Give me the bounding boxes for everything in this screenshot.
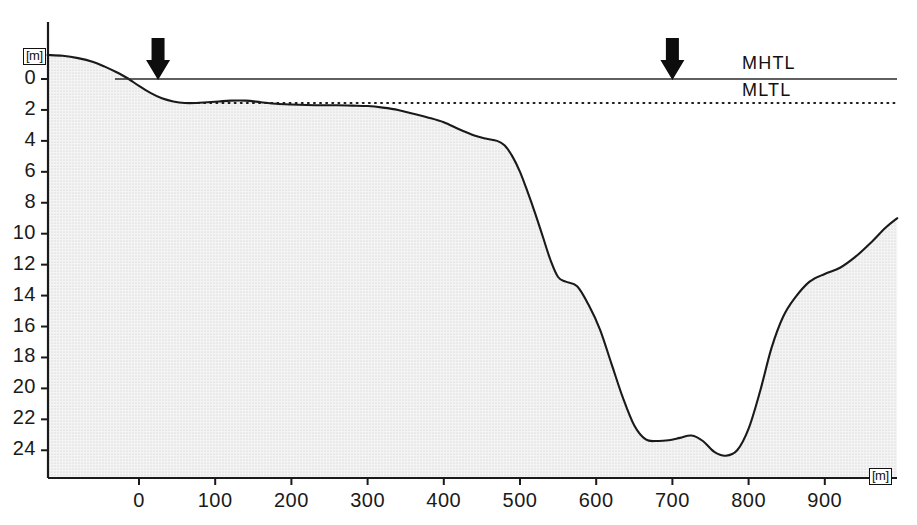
x-tick-label: 800	[709, 489, 789, 512]
y-tick-label: 22	[0, 406, 36, 429]
x-tick-label: 200	[251, 489, 331, 512]
y-tick-label: 4	[0, 128, 36, 151]
x-tick-label: 700	[632, 489, 712, 512]
seabed-profile-figure: [m] [m] MHTL MLTL 024681012141618202224 …	[0, 0, 917, 525]
x-tick-label: 500	[480, 489, 560, 512]
x-tick-label: 600	[556, 489, 636, 512]
x-axis-unit-label: [m]	[869, 468, 892, 485]
mhtl-label: MHTL	[742, 53, 796, 74]
mltl-label: MLTL	[742, 80, 791, 101]
profile-plot-svg	[0, 0, 917, 525]
y-tick-label: 18	[0, 344, 36, 367]
y-tick-label: 24	[0, 437, 36, 460]
y-tick-label: 0	[0, 66, 36, 89]
y-tick-label: 16	[0, 314, 36, 337]
y-tick-label: 8	[0, 190, 36, 213]
x-tick-label: 300	[328, 489, 408, 512]
y-tick-label: 2	[0, 97, 36, 120]
x-tick-label: 900	[785, 489, 865, 512]
x-tick-label: 0	[99, 489, 179, 512]
y-tick-label: 10	[0, 221, 36, 244]
arrow-markers	[146, 38, 684, 80]
y-tick-label: 20	[0, 375, 36, 398]
y-tick-label: 14	[0, 283, 36, 306]
x-tick-label: 400	[404, 489, 484, 512]
arrow-marker-left	[146, 38, 170, 80]
seabed-fill	[48, 55, 898, 478]
y-tick-label: 6	[0, 159, 36, 182]
x-tick-label: 100	[175, 489, 255, 512]
y-tick-label: 12	[0, 252, 36, 275]
y-axis-unit-label: [m]	[23, 48, 46, 65]
arrow-marker-right	[660, 38, 684, 80]
